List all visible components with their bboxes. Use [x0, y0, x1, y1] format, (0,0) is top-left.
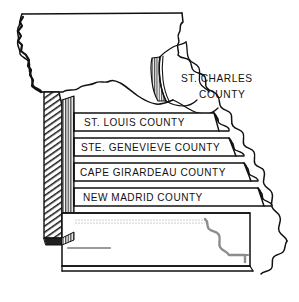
- label-cape-girardeau-county: CAPE GIRARDEAU COUNTY: [80, 167, 226, 178]
- label-ste-genevieve-county: STE. GENEVIEVE COUNTY: [81, 142, 220, 153]
- label-st-charles-county-line2: COUNTY: [199, 88, 245, 100]
- label-st-louis-county: ST. LOUIS COUNTY: [84, 117, 185, 128]
- label-st-charles-county-line1: ST. CHARLES: [181, 72, 253, 84]
- label-new-madrid-county: NEW MADRID COUNTY: [83, 192, 203, 203]
- map-figure: ST. CHARLES COUNTY ST. LOUIS COUNTY STE.…: [0, 0, 299, 302]
